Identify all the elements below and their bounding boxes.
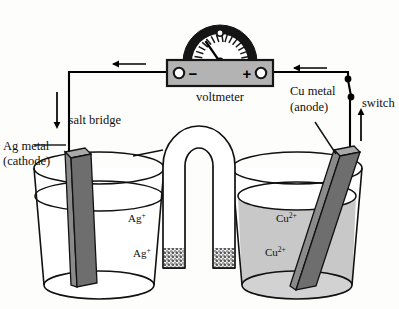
leader-salt-bridge bbox=[133, 150, 163, 156]
switch-contact-lower bbox=[348, 94, 355, 101]
silver-electrode-label-line2: (cathode) bbox=[3, 154, 50, 168]
salt-bridge-plug-right bbox=[214, 248, 234, 268]
voltmeter-positive-terminal[interactable] bbox=[256, 68, 266, 78]
switch-contact-upper bbox=[345, 76, 352, 83]
voltmeter-zero-adjust-screw bbox=[217, 30, 223, 36]
voltmeter-negative-sign: − bbox=[189, 65, 198, 82]
voltmeter-label: voltmeter bbox=[196, 90, 245, 104]
electron-flow-down-left-arrow bbox=[54, 92, 61, 129]
silver-ion-base-2: Ag bbox=[133, 247, 147, 259]
salt-bridge-plug-left bbox=[164, 248, 184, 268]
copper-electrode-label-line2: (anode) bbox=[290, 100, 328, 114]
silver-electrode-label-line1: Ag metal bbox=[3, 139, 50, 153]
salt-bridge-label: salt bridge bbox=[69, 113, 122, 127]
copper-electrode-label-line1: Cu metal bbox=[290, 84, 336, 98]
silver-ion-sup-1: + bbox=[141, 211, 145, 220]
silver-electrode bbox=[65, 148, 97, 287]
left-beaker-solution bbox=[34, 168, 164, 299]
salt-bridge bbox=[163, 126, 235, 268]
leader-copper-electrode bbox=[315, 122, 336, 154]
copper-ion-base-2: Cu bbox=[265, 246, 278, 258]
wire-voltmeter-to-switch bbox=[273, 72, 348, 78]
cell-diagram-svg: − + voltmeter bbox=[0, 0, 399, 309]
copper-ion-sup-1: 2+ bbox=[289, 211, 297, 220]
voltmeter-negative-terminal[interactable] bbox=[174, 68, 184, 78]
left-beaker bbox=[34, 152, 164, 299]
silver-ion-sup-2: + bbox=[146, 246, 150, 255]
electron-flow-top-right-arrow bbox=[293, 65, 327, 72]
switch[interactable] bbox=[345, 76, 355, 101]
wire-cathode-to-voltmeter bbox=[69, 72, 167, 152]
salt-bridge-tube bbox=[163, 126, 235, 268]
switch-label: switch bbox=[362, 96, 395, 110]
electron-flow-up-right-arrow bbox=[358, 108, 365, 141]
galvanic-cell-figure: − + voltmeter bbox=[0, 0, 399, 309]
copper-ion-base-1: Cu bbox=[276, 212, 289, 224]
electron-flow-top-left-arrow bbox=[112, 61, 146, 68]
voltmeter-positive-sign: + bbox=[243, 65, 252, 82]
voltmeter[interactable]: − + bbox=[167, 25, 273, 86]
copper-ion-sup-2: 2+ bbox=[278, 245, 286, 254]
silver-ion-base-1: Ag bbox=[128, 212, 142, 224]
